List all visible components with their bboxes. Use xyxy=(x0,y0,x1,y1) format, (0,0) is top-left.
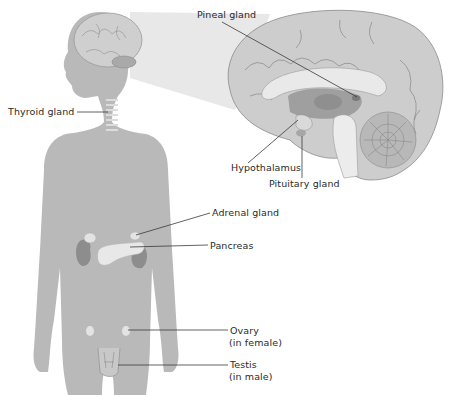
right-ovary xyxy=(122,326,130,336)
sagittal-brain xyxy=(228,10,443,180)
label-adrenal-gland: Adrenal gland xyxy=(212,207,279,218)
label-pituitary-gland: Pituitary gland xyxy=(269,178,340,189)
left-kidney xyxy=(76,240,91,266)
label-testis-note: (in male) xyxy=(229,371,273,382)
left-adrenal xyxy=(84,233,96,243)
label-testis: Testis xyxy=(230,359,257,370)
label-hypothalamus: Hypothalamus xyxy=(231,162,301,173)
head-cerebellum xyxy=(112,56,136,68)
testis xyxy=(98,348,120,377)
label-pineal-gland: Pineal gland xyxy=(197,9,256,20)
thyroid-gland xyxy=(106,100,118,130)
endocrine-diagram: Pineal gland Thyroid gland Hypothalamus … xyxy=(0,0,453,395)
left-ovary xyxy=(86,326,94,336)
right-adrenal xyxy=(130,232,140,240)
label-thyroid-gland: Thyroid gland xyxy=(8,106,75,117)
label-pancreas: Pancreas xyxy=(210,240,253,251)
diagram-artwork xyxy=(0,0,453,395)
label-ovary: Ovary xyxy=(230,325,259,336)
label-ovary-note: (in female) xyxy=(229,337,282,348)
